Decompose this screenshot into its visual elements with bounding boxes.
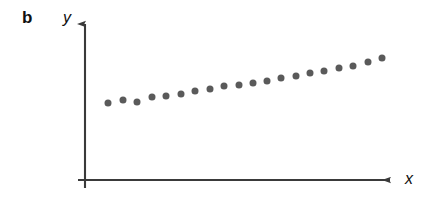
figure-panel-b: b y x bbox=[0, 0, 434, 210]
data-point bbox=[120, 97, 127, 104]
data-point bbox=[178, 91, 185, 98]
y-axis-label: y bbox=[63, 10, 71, 26]
data-point bbox=[379, 55, 386, 62]
data-point bbox=[149, 94, 156, 101]
data-point bbox=[236, 82, 243, 89]
data-point bbox=[307, 70, 314, 77]
data-point bbox=[192, 88, 199, 95]
data-point bbox=[336, 65, 343, 72]
data-point bbox=[250, 80, 257, 87]
data-point bbox=[105, 100, 112, 107]
data-point bbox=[207, 86, 214, 93]
data-point bbox=[163, 93, 170, 100]
data-point bbox=[321, 68, 328, 75]
axis-lines bbox=[78, 24, 390, 188]
data-point bbox=[365, 59, 372, 66]
data-point-group bbox=[105, 55, 386, 107]
data-point bbox=[293, 73, 300, 80]
data-point bbox=[134, 99, 141, 106]
data-point bbox=[278, 75, 285, 82]
data-point bbox=[264, 78, 271, 85]
data-point bbox=[221, 83, 228, 90]
x-axis-label: x bbox=[405, 171, 413, 187]
scatter-plot bbox=[0, 0, 434, 210]
data-point bbox=[350, 63, 357, 70]
